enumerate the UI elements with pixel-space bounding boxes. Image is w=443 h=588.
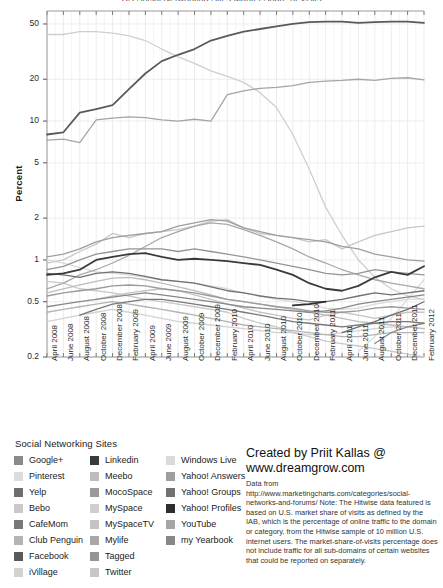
legend-item[interactable]: Mylife [90,532,166,548]
legend-item[interactable]: Pinterest [14,468,90,484]
legend-item-label: Mylife [105,535,129,545]
legend-swatch [166,488,175,497]
x-tick-label: August 2010 [280,316,288,361]
x-tick-label: August 2009 [182,316,190,361]
legend-swatch [14,488,23,497]
legend-item-label: Facebook [29,551,69,561]
legend-swatch [90,456,99,465]
x-tick-label: August 2008 [83,316,91,361]
legend-item-label: MySpace [105,503,143,513]
legend-item[interactable]: MySpace [90,500,166,516]
x-tick-label: October 2008 [100,313,108,361]
legend-item[interactable]: Club Penguin [14,532,90,548]
credit-line-2: www.dreamgrow.com [246,461,438,476]
y-tick-label: 10 [13,116,39,125]
legend-item[interactable]: iVillage [14,564,90,580]
legend-item[interactable]: Meebo [90,468,166,484]
legend-item-label: YouTube [181,519,216,529]
x-tick-label: October 2009 [198,313,206,361]
legend-swatch [90,568,99,577]
legend-columns: Google+PinterestYelpBeboCafeMomClub Peng… [14,452,236,580]
x-tick-label: October 2010 [296,313,304,361]
legend-swatch [166,504,175,513]
x-tick-label: April 2011 [346,326,354,361]
legend-swatch [90,504,99,513]
legend-item[interactable]: YouTube [166,516,236,532]
legend-column: Google+PinterestYelpBeboCafeMomClub Peng… [14,452,90,580]
credit-block: Created by Priit Kallas @ www.dreamgrow.… [246,446,438,565]
x-tick-label: December 2011 [411,305,419,361]
credit-line-1: Created by Priit Kallas @ [246,446,438,461]
legend-item-label: MySpaceTV [105,519,154,529]
x-tick-label: December 2009 [214,304,222,361]
legend-item-label: Windows Live [181,455,237,465]
legend-item[interactable]: Yahoo! Profiles [166,500,236,516]
legend-swatch [166,536,175,545]
x-tick-label: April 2010 [247,325,255,361]
legend-item[interactable]: my Yearbook [166,532,236,548]
x-tick-label: February 2011 [329,310,337,361]
legend-item-label: Club Penguin [29,535,83,545]
legend-item[interactable]: Google+ [14,452,90,468]
legend-item-label: Twitter [105,567,132,577]
credit-note: Data from http://www.marketingcharts.com… [246,479,438,565]
x-tick-label: February 2009 [132,309,140,361]
x-tick-label: June 2008 [67,324,75,361]
legend-item-label: Linkedin [105,455,139,465]
chart-container: US Social Networking Sites Market Share … [0,0,443,588]
x-tick-label: June 2010 [264,324,272,361]
legend-swatch [14,536,23,545]
legend-item[interactable]: MocoSpace [90,484,166,500]
legend-swatch [90,488,99,497]
legend-item[interactable]: MySpaceTV [90,516,166,532]
x-tick-label: April 2008 [51,325,59,361]
legend-swatch [166,456,175,465]
y-tick-label: 0.2 [13,352,39,361]
legend-swatch [14,472,23,481]
legend-item-label: Yahoo! Profiles [181,503,241,513]
legend-item-label: iVillage [29,567,58,577]
legend-item[interactable]: Windows Live [166,452,236,468]
legend-swatch [14,456,23,465]
legend-title: Social Networking Sites [15,438,236,449]
legend-swatch [14,504,23,513]
y-tick-label: 50 [13,19,39,28]
legend-item-label: Pinterest [29,471,65,481]
x-tick-label: June 2011 [362,324,370,361]
x-tick-label: August 2011 [378,317,386,361]
legend-item[interactable]: Tagged [90,548,166,564]
x-tick-label: February 2012 [428,309,436,361]
legend-item[interactable]: Linkedin [90,452,166,468]
legend-swatch [166,520,175,529]
legend-swatch [90,552,99,561]
legend-item-label: my Yearbook [181,535,233,545]
x-tick-label: October 2011 [395,313,403,361]
legend-item[interactable]: CafeMom [14,516,90,532]
legend-item[interactable]: Yelp [14,484,90,500]
legend: Social Networking Sites Google+Pinterest… [14,438,236,580]
x-tick-label: April 2009 [149,325,157,361]
legend-item-label: Meebo [105,471,133,481]
y-tick-label: 2 [13,213,39,222]
legend-swatch [90,472,99,481]
legend-item-label: Yahoo! Groups [181,487,241,497]
legend-item-label: Yahoo! Answers [181,471,245,481]
legend-item-label: CafeMom [29,519,68,529]
legend-item[interactable]: Yahoo! Answers [166,468,236,484]
y-tick-label: 5 [13,158,39,167]
legend-item-label: Bebo [29,503,50,513]
x-tick-label: December 2010 [313,304,321,361]
y-tick-label: 20 [13,74,39,83]
x-tick-label: February 2010 [231,309,239,361]
legend-swatch [166,472,175,481]
legend-swatch [14,568,23,577]
legend-item[interactable]: Bebo [14,500,90,516]
legend-item[interactable]: Facebook [14,548,90,564]
legend-item[interactable]: Yahoo! Groups [166,484,236,500]
legend-item-label: Yelp [29,487,46,497]
x-tick-label: June 2009 [165,324,173,361]
legend-swatch [14,520,23,529]
legend-item-label: Tagged [105,551,135,561]
legend-item[interactable]: Twitter [90,564,166,580]
legend-swatch [90,520,99,529]
